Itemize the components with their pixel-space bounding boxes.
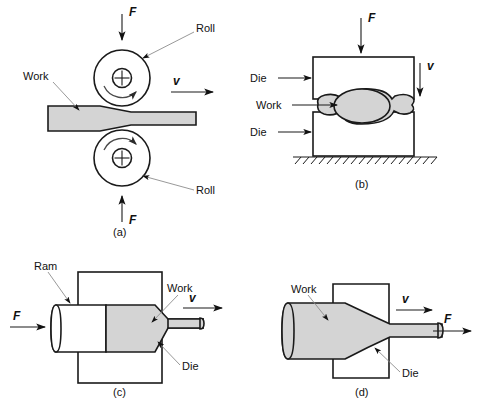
force-label-d: F [444,312,452,326]
force-label-b: F [368,11,376,25]
panel-d-drawing: v F Work Die (d) [282,283,471,398]
figure-canvas: F F v [0,0,477,408]
velocity-label-d: v [402,292,410,306]
roll-top [94,50,150,106]
ram-leader [48,272,70,303]
work-wire-d [282,303,443,359]
force-label-bottom: F [129,213,137,227]
die-label-c: Die [182,360,199,372]
extruded-product [168,318,204,329]
ram-label: Ram [34,260,57,272]
work-label-d: Work [291,283,317,295]
velocity-label-a: v [173,74,181,88]
caption-b: (b) [355,178,368,190]
roll-bottom-label: Roll [196,184,215,196]
force-label-c: F [13,309,21,323]
caption-d: (d) [355,386,368,398]
work-label-b: Work [256,99,282,111]
velocity-label-b: v [427,59,435,73]
roll-bottom-leader [143,176,194,190]
ram-body [51,305,106,352]
caption-c: (c) [113,386,126,398]
die-lower-label: Die [250,126,267,138]
work-strip [48,106,196,131]
metal-forming-figure: F F v [0,0,477,408]
ground-support [293,157,437,164]
roll-bottom [94,130,150,186]
work-label-c: Work [167,282,193,294]
roll-top-leader [143,32,194,58]
roll-top-label: Roll [196,22,215,34]
panel-b-forging: F [250,11,437,190]
die-label-d: Die [402,367,419,379]
panel-c-extrusion: F v Ram Work Die (c) [10,260,222,398]
force-label-top: F [129,5,137,19]
die-upper-label: Die [250,72,267,84]
caption-a: (a) [113,226,126,238]
work-label-a: Work [23,70,49,82]
panel-a-rolling: F F v [23,5,215,238]
